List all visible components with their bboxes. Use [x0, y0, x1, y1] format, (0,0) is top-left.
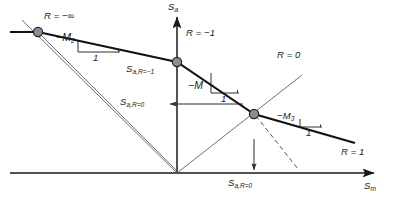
ray-r-neg-infinity [22, 20, 177, 173]
label-sa-r-zero-mid: Sa,R=0 [120, 97, 144, 107]
slope-triangle-m3 [300, 119, 322, 127]
label-slope-m-run: 1 [221, 94, 226, 104]
node-r-zero [249, 109, 258, 118]
label-r-zero: R = 0 [277, 50, 300, 60]
label-slope-m3: −M3 [277, 111, 294, 121]
label-r-one: R = 1 [341, 147, 364, 157]
haigh-diagram-figure: Sa Sm R = −∞ R = −1 R = 0 R = 1 Sa,R=−1 … [0, 0, 394, 207]
label-slope-m2-run: 1 [93, 53, 98, 63]
label-sa-r-negative-one: Sa,R=−1 [126, 64, 154, 74]
ray-from-node-r-neg-inf [38, 32, 178, 172]
node-r-negative-infinity [33, 27, 42, 36]
label-r-negative-one: R = −1 [186, 28, 215, 38]
constant-life-envelope [10, 32, 355, 143]
label-r-negative-infinity: R = −∞ [44, 11, 75, 21]
life-line-polyline [10, 32, 355, 143]
y-axis-label: Sa [168, 2, 178, 12]
slope-triangle-m [211, 73, 239, 93]
dimension-arrows [170, 104, 254, 170]
label-sa-r-zero-bottom: Sa,R=0 [228, 178, 252, 188]
x-axis-label: Sm [364, 181, 376, 191]
label-slope-m2: −M2 [56, 32, 75, 43]
label-slope-m: −M [188, 80, 203, 91]
label-slope-m3-run: 1 [306, 128, 311, 138]
node-r-negative-one [172, 57, 181, 66]
